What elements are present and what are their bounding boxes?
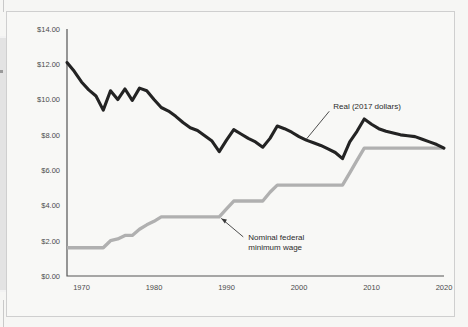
y-axis-tick-label: $6.00 <box>41 166 60 175</box>
bottom-left-rule <box>3 300 4 327</box>
panel-marker-dot <box>0 70 3 73</box>
nominal-annotation-label: Nominal federal <box>248 233 304 242</box>
y-axis-tick-label: $8.00 <box>41 131 60 140</box>
y-axis-tick-label: $2.00 <box>41 237 60 246</box>
x-axis-tick-label: 2000 <box>291 283 308 292</box>
y-axis-tick-label: $12.00 <box>37 60 60 69</box>
x-axis-tick-label: 2020 <box>436 283 453 292</box>
y-axis-tick-label: $0.00 <box>41 272 60 281</box>
y-axis-tick-label: $10.00 <box>37 95 60 104</box>
y-axis-tick-label: $14.00 <box>37 25 60 34</box>
x-axis-tick-label: 1990 <box>218 283 235 292</box>
x-axis-tick-label: 1970 <box>73 283 90 292</box>
top-left-rule <box>3 0 4 12</box>
x-axis-tick-label: 2010 <box>363 283 380 292</box>
minimum-wage-line-chart: $0.00$2.00$4.00$6.00$8.00$10.00$12.00$14… <box>7 12 456 318</box>
real-annotation-leader-line <box>306 111 329 139</box>
x-axis-tick-label: 1980 <box>146 283 163 292</box>
chart-frame: $0.00$2.00$4.00$6.00$8.00$10.00$12.00$14… <box>6 11 455 317</box>
nominal-annotation-label: minimum wage <box>248 243 302 252</box>
y-axis-tick-label: $4.00 <box>41 201 60 210</box>
real-annotation-label: Real (2017 dollars) <box>333 102 401 111</box>
